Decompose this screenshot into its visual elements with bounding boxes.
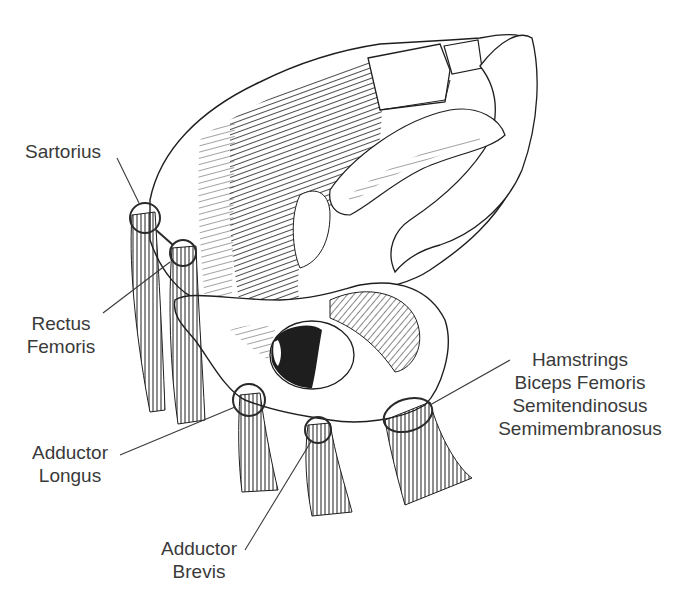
label-adductor-brevis: Adductor Brevis [155,537,243,583]
label-adductor-longus: Adductor Longus [26,441,114,487]
ischium-pubis [174,283,448,422]
hamstrings-muscle [385,402,472,505]
label-rectus-femoris: Rectus Femoris [25,312,97,358]
pelvis-diagram [0,0,684,602]
ilium [150,35,537,311]
label-sartorius: Sartorius [25,140,101,163]
label-hamstrings: Hamstrings Biceps Femoris Semitendinosus… [480,348,680,440]
